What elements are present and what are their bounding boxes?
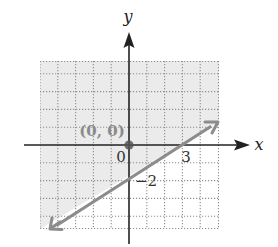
y-axis-label: y [122, 7, 133, 26]
y-intercept-label: −2 [135, 172, 157, 190]
origin-label: 0 [116, 148, 126, 166]
coordinate-graph: y x 0 3 −2 (0, 0) [0, 0, 278, 247]
x-axis-label: x [254, 135, 263, 154]
x-intercept-label: 3 [181, 148, 191, 166]
test-point-label: (0, 0) [79, 122, 125, 140]
